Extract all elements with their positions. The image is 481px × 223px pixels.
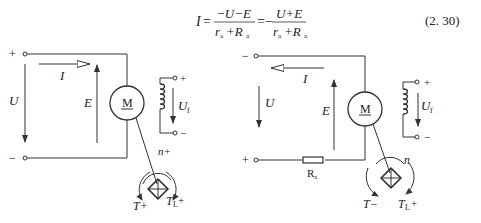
right-circuit-labels: − + I U E M + − U f R a n T− T L + [242, 49, 433, 212]
right-field-plus: + [424, 76, 430, 88]
right-voltage-label: U [265, 95, 276, 110]
right-torque-label: T− [363, 197, 378, 211]
diagram-canvas: I = −U−E r a +R a =− U+E r a +R a (2. 30… [0, 0, 481, 223]
eq-frac2-numerator: U+E [276, 6, 302, 21]
left-terminal-bottom-sign: − [9, 151, 16, 165]
terminal-top [254, 54, 258, 58]
left-voltage-label: U [9, 93, 20, 108]
field-wire-bottom [160, 109, 173, 133]
wire-top [27, 54, 127, 86]
right-speed-label: n [404, 153, 410, 167]
field-coil-icon [403, 89, 408, 114]
right-resistor-sub: a [314, 173, 318, 181]
right-motor-label: M [360, 102, 371, 116]
right-circuit [254, 54, 419, 196]
eq-frac1-den-r-sub: a [220, 32, 224, 40]
speed-arc [376, 157, 404, 164]
eq-frac2-den-R-sub: a [304, 32, 308, 40]
torque-arc-left [366, 168, 378, 196]
field-wire-top [160, 78, 173, 84]
left-field-voltage-sub: f [187, 106, 190, 115]
left-field-plus: + [180, 72, 186, 84]
right-terminal-bottom-sign: + [242, 153, 249, 167]
left-load-torque-sign: + [178, 194, 184, 206]
left-motor-label: M [122, 96, 133, 110]
armature-resistor [303, 157, 323, 163]
right-load-torque-sign: + [411, 197, 417, 209]
right-emf-label: E [321, 103, 330, 118]
eq-frac1-den-R: +R [226, 24, 243, 39]
terminal-bottom [254, 158, 258, 162]
right-load-torque-sub: L [405, 203, 410, 212]
right-terminal-top-sign: − [242, 49, 249, 63]
eq-frac2-den-r-sub: a [278, 32, 282, 40]
left-circuit-labels: + − I U E M + − U f n+ T+ T L + [9, 47, 190, 213]
left-speed-label: n+ [158, 145, 171, 157]
terminal-top [23, 52, 27, 56]
field-coil-icon [160, 84, 165, 109]
rotor-icon [148, 179, 168, 199]
right-field-voltage-sub: f [430, 106, 433, 115]
wire-top [258, 56, 365, 92]
field-terminal-minus [173, 131, 177, 135]
left-field-minus: − [180, 127, 186, 139]
left-torque-label: T+ [133, 199, 148, 213]
eq-frac2-den-R: +R [284, 24, 301, 39]
terminal-bottom [23, 156, 27, 160]
right-field-minus: − [424, 131, 430, 143]
left-emf-label: E [83, 95, 92, 110]
rotor-icon [381, 168, 401, 188]
load-torque-arc-right [406, 163, 414, 194]
field-terminal-plus [173, 76, 177, 80]
right-current-label: I [302, 71, 308, 86]
eq-frac1-den-R-sub: a [246, 32, 250, 40]
eq-lhs: I [195, 14, 202, 29]
left-current-label: I [59, 68, 65, 83]
equation-2-30: I = −U−E r a +R a =− U+E r a +R a (2. 30… [195, 6, 460, 40]
eq-equals-1: = [203, 14, 211, 29]
field-terminal-plus [415, 80, 419, 84]
field-terminal-minus [415, 135, 419, 139]
left-terminal-top-sign: + [9, 47, 16, 61]
eq-frac1-numerator: −U−E [216, 6, 251, 21]
wire-bottom [27, 120, 127, 158]
shaft-line [373, 124, 390, 173]
eq-equals-2: =− [257, 14, 273, 29]
field-wire-bottom [403, 114, 415, 137]
wire-bottom-right [325, 126, 365, 160]
left-circuit [23, 52, 177, 200]
eq-number: (2. 30) [425, 13, 460, 28]
field-wire-top [403, 82, 415, 89]
